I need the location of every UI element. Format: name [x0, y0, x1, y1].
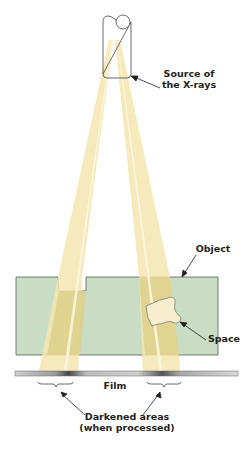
film-label: Film: [100, 380, 130, 391]
right-brace: [147, 382, 181, 387]
source-label: Source of the X-rays: [160, 68, 218, 90]
source-pointer-line: [134, 77, 160, 88]
darkened-left-arrowhead-icon: [61, 392, 67, 397]
left-brace: [38, 382, 73, 387]
film-strip: [15, 371, 238, 376]
darkened-label-line1: Darkened areas: [72, 411, 182, 422]
darkened-label-line2: (when processed): [72, 422, 182, 433]
source-arrowhead-icon: [131, 76, 138, 81]
object-label: Object: [194, 243, 232, 254]
source-label-line1: Source of: [160, 68, 218, 79]
darkened-areas-label: Darkened areas (when processed): [72, 411, 182, 433]
object-pointer-line: [184, 255, 196, 274]
source-label-line2: the X-rays: [160, 79, 218, 90]
space-label: Space: [204, 333, 244, 344]
